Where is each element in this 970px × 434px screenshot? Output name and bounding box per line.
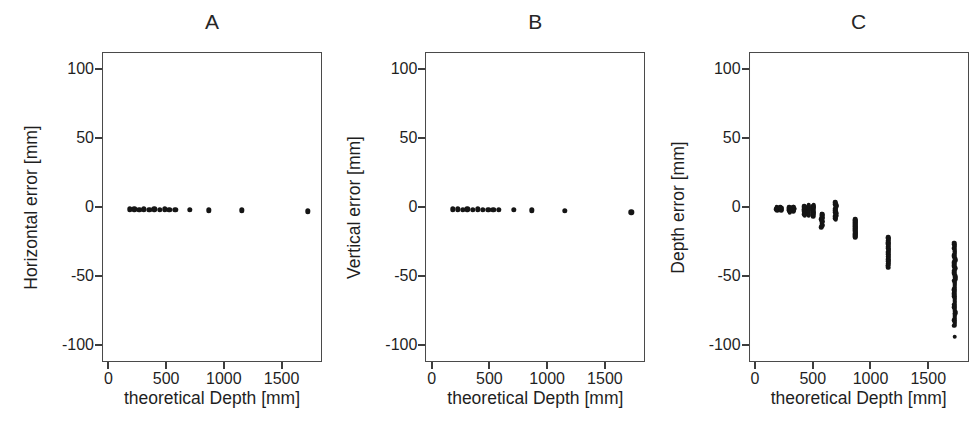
y-tick-mark xyxy=(742,275,749,277)
y-tick-mark xyxy=(95,137,102,139)
data-point xyxy=(952,334,957,339)
data-point xyxy=(305,209,310,214)
x-tick-mark xyxy=(604,362,606,369)
panel-title: A xyxy=(102,10,322,34)
chart-panel-a: AHorizontal error [mm]theoretical Depth … xyxy=(0,0,323,434)
x-tick-label: 1000 xyxy=(529,370,565,388)
x-tick-mark xyxy=(488,362,490,369)
data-point xyxy=(778,205,783,210)
y-tick-mark xyxy=(95,344,102,346)
x-tick-label: 500 xyxy=(476,370,503,388)
x-axis-label: theoretical Depth [mm] xyxy=(102,388,322,409)
y-tick-label-group: 100500-50-100 xyxy=(687,52,741,362)
y-tick-mark xyxy=(95,68,102,70)
chart-panel-b: BVertical error [mm]theoretical Depth [m… xyxy=(323,0,646,434)
x-tick-label: 0 xyxy=(104,370,113,388)
x-tick-label: 0 xyxy=(427,370,436,388)
data-point xyxy=(562,208,567,213)
y-tick-label: 50 xyxy=(76,129,94,147)
data-point xyxy=(952,240,957,245)
x-tick-mark xyxy=(107,362,109,369)
data-point xyxy=(853,217,858,222)
y-tick-label: 50 xyxy=(723,129,741,147)
y-tick-mark xyxy=(95,206,102,208)
y-tick-label: -50 xyxy=(394,267,417,285)
x-tick-label: 500 xyxy=(799,370,826,388)
figure-panel-container: AHorizontal error [mm]theoretical Depth … xyxy=(0,0,970,434)
y-tick-mark xyxy=(418,68,425,70)
x-tick-mark xyxy=(812,362,814,369)
data-point xyxy=(886,235,891,240)
chart-panel-c: CDepth error [mm]theoretical Depth [mm]1… xyxy=(647,0,970,434)
data-point xyxy=(167,207,172,212)
x-tick-mark xyxy=(546,362,548,369)
y-tick-mark xyxy=(418,344,425,346)
data-point xyxy=(529,208,534,213)
y-tick-label: 100 xyxy=(714,60,741,78)
data-point xyxy=(833,200,838,205)
x-tick-label: 0 xyxy=(751,370,760,388)
x-tick-mark xyxy=(281,362,283,369)
data-point xyxy=(819,211,824,216)
y-tick-label-group: 100500-50-100 xyxy=(40,52,94,362)
data-point xyxy=(511,207,516,212)
y-tick-mark xyxy=(742,137,749,139)
x-axis-label: theoretical Depth [mm] xyxy=(425,388,645,409)
y-axis-label-text: Vertical error [mm] xyxy=(344,136,365,279)
y-tick-label: 100 xyxy=(67,60,94,78)
y-axis-label-text: Depth error [mm] xyxy=(667,141,688,273)
x-tick-label: 1500 xyxy=(910,370,946,388)
y-tick-label: -100 xyxy=(709,336,741,354)
x-tick-label: 1500 xyxy=(587,370,623,388)
data-point xyxy=(239,208,244,213)
y-tick-mark xyxy=(742,68,749,70)
y-tick-label: 50 xyxy=(400,129,418,147)
data-point xyxy=(496,207,501,212)
y-tick-label: -50 xyxy=(71,267,94,285)
x-tick-mark xyxy=(754,362,756,369)
x-axis-label: theoretical Depth [mm] xyxy=(749,388,969,409)
data-point xyxy=(172,207,177,212)
panel-title: B xyxy=(425,10,645,34)
x-tick-label: 500 xyxy=(153,370,180,388)
y-tick-label: 0 xyxy=(408,198,417,216)
data-point xyxy=(206,208,211,213)
plot-area xyxy=(102,52,322,362)
x-tick-label: 1000 xyxy=(206,370,242,388)
x-tick-mark xyxy=(869,362,871,369)
data-point xyxy=(491,207,496,212)
y-tick-label: -50 xyxy=(718,267,741,285)
y-tick-mark xyxy=(418,137,425,139)
x-tick-mark xyxy=(927,362,929,369)
plot-area xyxy=(425,52,645,362)
panel-title: C xyxy=(749,10,969,34)
x-tick-label: 1000 xyxy=(853,370,889,388)
x-tick-mark xyxy=(431,362,433,369)
y-tick-label: -100 xyxy=(62,336,94,354)
data-point xyxy=(792,204,797,209)
y-tick-mark xyxy=(742,206,749,208)
y-tick-label: -100 xyxy=(385,336,417,354)
y-tick-mark xyxy=(95,275,102,277)
plot-area xyxy=(749,52,969,362)
y-tick-label-group: 100500-50-100 xyxy=(363,52,417,362)
data-point xyxy=(811,203,816,208)
y-tick-label: 0 xyxy=(85,198,94,216)
data-point xyxy=(629,209,634,214)
data-point xyxy=(187,207,192,212)
y-tick-label: 100 xyxy=(391,60,418,78)
y-tick-label: 0 xyxy=(732,198,741,216)
x-tick-label: 1500 xyxy=(264,370,300,388)
y-axis-label-text: Horizontal error [mm] xyxy=(21,125,42,289)
y-tick-mark xyxy=(418,275,425,277)
x-tick-mark xyxy=(223,362,225,369)
y-tick-mark xyxy=(418,206,425,208)
y-tick-mark xyxy=(742,344,749,346)
x-tick-mark xyxy=(165,362,167,369)
